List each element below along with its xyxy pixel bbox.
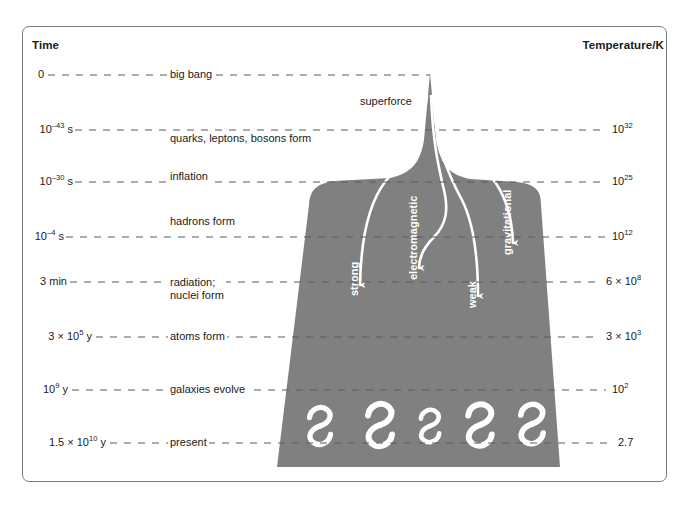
time-tick-4: 3 min <box>0 276 67 287</box>
event-label-galaxies-evolve: galaxies evolve <box>168 384 247 396</box>
time-tick-6: 109 y <box>0 384 68 395</box>
temperature-tick-7: 2.7 <box>618 437 633 448</box>
time-tick-5: 3 × 105 y <box>0 331 92 342</box>
time-tick-2: 10–30 s <box>0 176 73 187</box>
event-label-big-bang: big bang <box>168 69 214 81</box>
event-label-radiation-nuclei-form: radiation;nuclei form <box>168 276 226 301</box>
temperature-tick-5: 3 × 103 <box>606 331 641 342</box>
force-label-strong: strong <box>348 262 360 296</box>
time-tick-1: 10–43 s <box>0 124 73 135</box>
event-label-atoms-form: atoms form <box>168 331 227 343</box>
temperature-tick-2: 1025 <box>612 176 633 187</box>
temperature-tick-4: 6 × 108 <box>606 276 641 287</box>
temperature-tick-3: 1012 <box>612 231 633 242</box>
cosmic-cone-graphic: strong electromagnetic weak gravitationa… <box>0 0 690 508</box>
event-label-quarks-leptons-bosons: quarks, leptons, bosons form <box>168 133 313 145</box>
time-tick-3: 10–4 s <box>0 231 64 242</box>
temperature-tick-1: 1032 <box>612 124 633 135</box>
event-label-hadrons-form: hadrons form <box>168 216 237 228</box>
time-tick-0: 0 <box>10 69 44 80</box>
event-label-present: present <box>168 437 209 449</box>
universe-timeline-figure: Time Temperature/K strong electromagneti <box>0 0 690 508</box>
event-label-inflation: inflation <box>168 171 210 183</box>
time-tick-7: 1.5 × 1010 y <box>0 437 106 448</box>
force-label-electromagnetic: electromagnetic <box>407 196 419 280</box>
superforce-label: superforce <box>360 95 412 107</box>
force-label-weak: weak <box>466 280 478 309</box>
force-label-gravitational: gravitational <box>501 190 513 255</box>
temperature-tick-6: 102 <box>612 384 628 395</box>
